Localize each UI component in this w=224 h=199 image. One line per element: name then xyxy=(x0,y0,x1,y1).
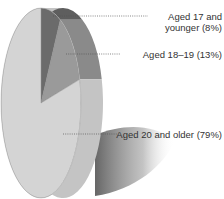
slice-label-1-line1: Aged 17 and xyxy=(168,11,222,22)
slice-label-2: Aged 18–19 (13%) xyxy=(143,49,222,60)
pie-chart: Aged 17 andyounger (8%)Aged 18–19 (13%)A… xyxy=(0,0,224,199)
slice-label-1-line2: younger (8%) xyxy=(165,22,222,33)
slice-label-1: Aged 17 andyounger (8%) xyxy=(165,11,222,33)
pie-face xyxy=(1,8,81,198)
slice-label-3: Aged 20 and older (79%) xyxy=(116,129,222,140)
